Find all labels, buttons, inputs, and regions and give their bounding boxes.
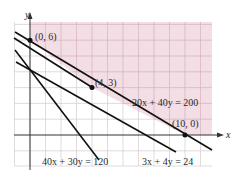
y-axis-label: y <box>24 9 30 20</box>
point-4-3 <box>90 85 95 90</box>
point-label-0-6: (0, 6) <box>35 31 57 43</box>
x-axis-label: x <box>225 129 231 140</box>
x-axis-arrow-icon <box>217 133 224 138</box>
point-label-10-0: (10, 0) <box>172 118 199 130</box>
point-10-0 <box>183 133 188 138</box>
line-label-3x-4y-24: 3x + 4y = 24 <box>142 156 193 167</box>
point-label-4-3: (4, 3) <box>95 77 117 89</box>
line-label-40x-30y-120: 40x + 30y = 120 <box>42 156 108 167</box>
constraint-graph: x y (0, 6) (4, 3) (10, 0) 20x + 40y = 20… <box>0 0 231 177</box>
line-label-20x-40y-200: 20x + 40y = 200 <box>132 97 198 108</box>
point-0-6 <box>28 38 33 43</box>
